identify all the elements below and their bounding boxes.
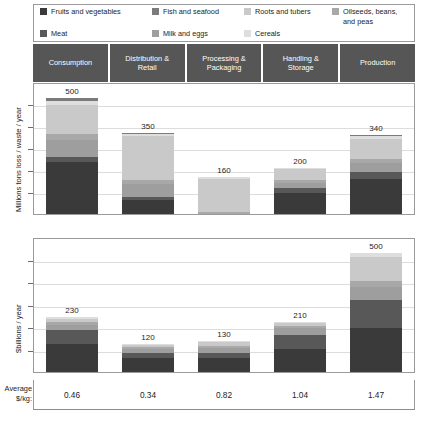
- bar-segment: [198, 358, 250, 372]
- column-header-row: ConsumptionDistribution & RetailProcessi…: [33, 44, 415, 82]
- average-value: 0.82: [186, 380, 262, 409]
- legend-item: Roots and tubers: [244, 6, 332, 28]
- bar-segment: [122, 136, 174, 180]
- legend-swatch-icon: [332, 8, 339, 15]
- average-value: 1.04: [262, 380, 338, 409]
- legend-swatch-icon: [40, 8, 47, 15]
- stacked-bar: [198, 177, 250, 214]
- bar-value-label: 160: [217, 166, 230, 175]
- bottom-rule: [33, 409, 415, 410]
- average-row: 0.460.340.821.041.47: [33, 380, 415, 410]
- bar-segment: [198, 179, 250, 211]
- stacked-bar: [274, 322, 326, 372]
- legend-label: Cereals: [255, 29, 280, 39]
- bar-segment: [46, 140, 98, 157]
- axis-tick: [28, 171, 33, 172]
- bar-value-label: 230: [65, 306, 78, 315]
- bars-top: 500350160200340: [34, 84, 414, 214]
- legend-swatch-icon: [244, 8, 251, 15]
- bar-segment: [46, 162, 98, 214]
- stacked-bar: [46, 317, 98, 372]
- bar-segment: [274, 335, 326, 349]
- axis-tick: [28, 149, 33, 150]
- bar-segment: [198, 212, 250, 214]
- bar-segment: [274, 328, 326, 335]
- axis-tick: [28, 306, 33, 307]
- stacked-bar: [122, 344, 174, 373]
- stacked-bar: [46, 98, 98, 214]
- legend-swatch-icon: [40, 30, 47, 37]
- column-header: Handling & Storage: [263, 44, 340, 82]
- bar-value-label: 500: [65, 87, 78, 96]
- bar-segment: [122, 200, 174, 214]
- bar-segment: [350, 163, 402, 172]
- legend-item: Fish and seafood: [152, 6, 244, 28]
- bar-column: 210: [262, 239, 338, 372]
- bar-column: 350: [110, 84, 186, 214]
- bar-segment: [274, 193, 326, 214]
- axis-tick: [28, 127, 33, 128]
- legend-swatch-icon: [244, 30, 251, 37]
- column-header: Consumption: [33, 44, 110, 82]
- bar-segment: [122, 184, 174, 197]
- bar-column: 160: [186, 84, 262, 214]
- bar-segment: [350, 139, 402, 160]
- panel-value: 230120130210500: [33, 238, 415, 373]
- bar-value-label: 340: [369, 124, 382, 133]
- legend-label: Fruits and vegetables: [51, 7, 121, 17]
- bar-value-label: 350: [141, 122, 154, 131]
- axis-tick: [28, 351, 33, 352]
- bar-segment: [46, 105, 98, 134]
- legend-label: Roots and tubers: [255, 7, 311, 17]
- bar-segment: [350, 328, 402, 372]
- bar-segment: [122, 358, 174, 372]
- legend-label: Milk and eggs: [163, 29, 208, 39]
- stacked-bar: [122, 133, 174, 214]
- axis-tick: [28, 283, 33, 284]
- bar-segment: [350, 300, 402, 329]
- average-value: 1.47: [338, 380, 414, 409]
- axis-ticks-bottom: [28, 238, 33, 373]
- bar-column: 120: [110, 239, 186, 372]
- average-row-label: Average $/kg:: [0, 384, 32, 403]
- average-value: 0.34: [110, 380, 186, 409]
- legend-label: Meat: [51, 29, 67, 39]
- column-header: Production: [340, 44, 415, 82]
- legend-swatch-icon: [152, 8, 159, 15]
- bar-segment: [350, 287, 402, 300]
- bar-column: 500: [338, 239, 414, 372]
- legend-label: Oilseeds, beans, and peas: [343, 7, 397, 26]
- bar-column: 230: [34, 239, 110, 372]
- column-header: Processing & Packaging: [187, 44, 264, 82]
- y-axis-title-bottom: $billions / year: [14, 304, 23, 353]
- column-header: Distribution & Retail: [110, 44, 187, 82]
- bar-segment: [350, 179, 402, 214]
- legend-label: Fish and seafood: [163, 7, 219, 17]
- bar-column: 340: [338, 84, 414, 214]
- bar-segment: [350, 257, 402, 281]
- legend-item: Cereals: [244, 28, 332, 41]
- bar-value-label: 210: [293, 311, 306, 320]
- panel-tonnage: 500350160200340: [33, 83, 415, 215]
- bar-segment: [274, 169, 326, 181]
- bar-segment: [350, 172, 402, 179]
- legend-swatch-icon: [152, 30, 159, 37]
- bar-value-label: 500: [369, 242, 382, 251]
- axis-tick: [28, 193, 33, 194]
- bar-segment: [46, 330, 98, 343]
- y-axis-title-top: Millions tons loss / waste / year: [14, 107, 23, 212]
- legend-item: Oilseeds, beans, and peas: [332, 6, 414, 28]
- axis-ticks-top: [28, 83, 33, 215]
- legend-item: Fruits and vegetables: [40, 6, 152, 28]
- axis-tick: [28, 105, 33, 106]
- chart-legend: Fruits and vegetablesFish and seafoodRoo…: [33, 4, 415, 42]
- stacked-bar: [274, 168, 326, 214]
- bar-value-label: 120: [141, 333, 154, 342]
- legend-item: Milk and eggs: [152, 28, 244, 41]
- bar-segment: [46, 344, 98, 373]
- figure-root: Fruits and vegetablesFish and seafoodRoo…: [0, 0, 425, 424]
- stacked-bar: [350, 135, 402, 214]
- bar-column: 200: [262, 84, 338, 214]
- bar-value-label: 200: [293, 157, 306, 166]
- average-value: 0.46: [34, 380, 110, 409]
